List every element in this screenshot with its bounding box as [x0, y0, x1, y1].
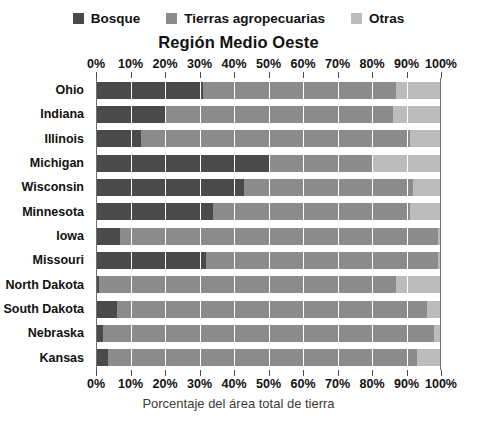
bar-segment: [413, 179, 441, 196]
bar-segment: [96, 252, 206, 269]
bar-row: [96, 297, 441, 321]
bar-segment: [410, 130, 441, 147]
legend-swatch-icon: [73, 13, 84, 24]
y-axis-label: Missouri: [0, 248, 90, 272]
bar-rows: [96, 78, 441, 370]
bar-row: [96, 224, 441, 248]
x-axis-tick-mark: [407, 370, 408, 376]
x-axis-tick-label: 80%: [359, 57, 384, 71]
y-axis-label: North Dakota: [0, 273, 90, 297]
x-axis-tick-label: 10%: [118, 57, 143, 71]
x-axis-tick-label: 20%: [152, 377, 177, 391]
bar-segment: [410, 203, 441, 220]
stacked-bar: [96, 276, 441, 293]
stacked-bar: [96, 82, 441, 99]
bar-segment: [96, 130, 141, 147]
stacked-bar: [96, 155, 441, 172]
x-axis-tick-label: 60%: [290, 377, 315, 391]
x-axis-tick-label: 90%: [394, 57, 419, 71]
x-axis-top-tick-labels: 0%10%20%30%40%50%60%70%80%90%100%: [96, 57, 441, 71]
bar-segment: [96, 325, 103, 342]
bar-segment: [393, 106, 441, 123]
bar-segment: [417, 349, 441, 366]
stacked-bar: [96, 130, 441, 147]
bar-segment: [396, 276, 441, 293]
x-axis-tick-mark: [200, 370, 201, 376]
stacked-bar: [96, 228, 441, 245]
bar-row: [96, 127, 441, 151]
legend-item: Bosque: [73, 12, 141, 26]
y-axis-label: Illinois: [0, 127, 90, 151]
legend-swatch-icon: [351, 13, 362, 24]
x-axis-tick-mark: [269, 370, 270, 376]
bar-segment: [269, 155, 373, 172]
y-axis-category-labels: OhioIndianaIllinoisMichiganWisconsinMinn…: [0, 78, 90, 370]
bar-segment: [96, 349, 108, 366]
x-axis-tick-label: 0%: [87, 377, 105, 391]
chart-container: BosqueTierras agropecuariasOtras Región …: [0, 0, 477, 431]
x-axis-tick-label: 30%: [187, 377, 212, 391]
bar-segment: [206, 252, 437, 269]
bar-row: [96, 273, 441, 297]
chart-legend: BosqueTierras agropecuariasOtras: [0, 12, 477, 26]
bar-row: [96, 102, 441, 126]
x-axis-tick-label: 60%: [290, 57, 315, 71]
legend-item: Otras: [351, 12, 404, 26]
bar-segment: [103, 325, 434, 342]
stacked-bar: [96, 106, 441, 123]
x-axis-tick-label: 70%: [325, 377, 350, 391]
bar-row: [96, 321, 441, 345]
x-axis-tick-label: 100%: [425, 377, 457, 391]
x-axis-tick-mark: [96, 370, 97, 376]
x-axis-tick-mark: [234, 370, 235, 376]
bar-segment: [396, 82, 441, 99]
bar-segment: [96, 301, 117, 318]
bar-segment: [372, 155, 441, 172]
y-axis-label: Indiana: [0, 102, 90, 126]
bar-segment: [438, 228, 441, 245]
y-axis-label: Ohio: [0, 78, 90, 102]
bar-segment: [99, 276, 396, 293]
bar-segment: [96, 82, 203, 99]
bar-row: [96, 200, 441, 224]
stacked-bar: [96, 325, 441, 342]
x-axis-bottom-tick-labels: 0%10%20%30%40%50%60%70%80%90%100%: [96, 377, 441, 391]
stacked-bar: [96, 252, 441, 269]
y-axis-label: Kansas: [0, 346, 90, 370]
x-axis-tick-label: 30%: [187, 57, 212, 71]
bar-row: [96, 78, 441, 102]
x-axis-tick-mark: [441, 72, 442, 78]
x-axis-tick-label: 10%: [118, 377, 143, 391]
bar-segment: [108, 349, 417, 366]
x-axis-tick-label: 40%: [221, 57, 246, 71]
bar-segment: [141, 130, 410, 147]
stacked-bar: [96, 203, 441, 220]
bar-segment: [165, 106, 393, 123]
legend-label: Bosque: [91, 12, 141, 26]
x-axis-tick-mark: [338, 370, 339, 376]
x-axis-tick-label: 0%: [87, 57, 105, 71]
y-axis-label: Wisconsin: [0, 175, 90, 199]
x-axis-tick-label: 100%: [425, 57, 457, 71]
bar-segment: [96, 228, 120, 245]
bar-segment: [117, 301, 428, 318]
stacked-bar: [96, 349, 441, 366]
plot-area: [96, 78, 441, 370]
bar-segment: [213, 203, 410, 220]
bar-segment: [120, 228, 437, 245]
x-axis-tick-label: 40%: [221, 377, 246, 391]
x-axis-tick-mark: [303, 370, 304, 376]
bar-segment: [427, 301, 441, 318]
x-axis-tick-mark: [372, 370, 373, 376]
x-axis-tick-label: 70%: [325, 57, 350, 71]
bar-segment: [96, 106, 165, 123]
stacked-bar: [96, 179, 441, 196]
bar-segment: [96, 179, 244, 196]
bar-row: [96, 248, 441, 272]
x-axis-bottom-tick-marks: [96, 370, 441, 376]
x-axis-tick-label: 50%: [256, 57, 281, 71]
x-axis-tick-label: 50%: [256, 377, 281, 391]
legend-swatch-icon: [166, 13, 177, 24]
bar-segment: [203, 82, 396, 99]
x-axis-tick-mark: [165, 370, 166, 376]
